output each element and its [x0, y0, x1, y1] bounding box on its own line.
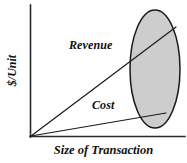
y-axis-label: $/Unit: [6, 54, 21, 85]
x-axis-label: Size of Transaction: [26, 143, 181, 158]
cost-series-label: Cost: [92, 98, 114, 113]
y-axis-label-wrapper: $/Unit: [0, 0, 26, 140]
chart-plot-area: [0, 0, 187, 163]
chart-figure: Revenue Cost $/Unit Size of Transaction: [0, 0, 187, 163]
opportunity-zone-ellipse: [130, 10, 180, 128]
revenue-series-label: Revenue: [69, 38, 112, 53]
